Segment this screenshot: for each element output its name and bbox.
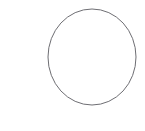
drawing-canvas [0, 0, 145, 131]
canvas-background [0, 0, 145, 131]
shape-layer [0, 0, 145, 131]
